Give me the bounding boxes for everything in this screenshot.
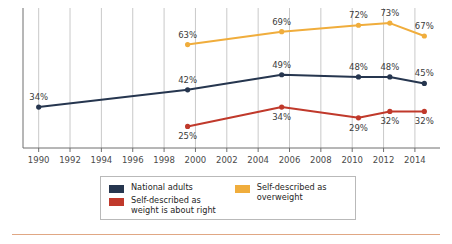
data-point[interactable] bbox=[279, 29, 284, 34]
legend-item-about-right[interactable]: Self-described as weight is about right bbox=[109, 196, 235, 215]
data-point[interactable] bbox=[387, 20, 392, 25]
line-chart: 1990199219941996199820002002200420062008… bbox=[0, 0, 452, 244]
axis-tick-label: 1994 bbox=[91, 155, 113, 165]
legend-label-national-adults: National adults bbox=[131, 183, 193, 193]
bottom-divider-rule bbox=[12, 234, 440, 235]
data-point[interactable] bbox=[36, 104, 41, 109]
series-line-2 bbox=[188, 23, 425, 44]
legend-column-left: National adults Self-described as weight… bbox=[109, 183, 235, 219]
data-point-label: 72% bbox=[349, 10, 368, 20]
data-point-label: 73% bbox=[380, 8, 399, 18]
legend-column-right: Self-described as overweight bbox=[235, 183, 347, 219]
data-point[interactable] bbox=[422, 33, 427, 38]
legend-item-overweight[interactable]: Self-described as overweight bbox=[235, 183, 347, 202]
data-point[interactable] bbox=[279, 104, 284, 109]
plot-area: 1990199219941996199820002002200420062008… bbox=[0, 0, 452, 170]
legend-label-overweight: Self-described as overweight bbox=[257, 183, 327, 202]
data-point-label: 25% bbox=[178, 131, 197, 141]
data-point-label: 69% bbox=[272, 17, 291, 27]
axis-tick-label: 2010 bbox=[341, 155, 363, 165]
axis-tick-label: 1998 bbox=[153, 155, 175, 165]
axis-tick-label: 2006 bbox=[279, 155, 301, 165]
legend-swatch-overweight bbox=[235, 185, 250, 193]
axis-tick-label: 1996 bbox=[122, 155, 144, 165]
axis-tick-label: 2002 bbox=[216, 155, 238, 165]
data-point-label: 48% bbox=[380, 62, 399, 72]
data-point[interactable] bbox=[387, 74, 392, 79]
data-point-label: 34% bbox=[29, 92, 48, 102]
data-point-label: 45% bbox=[415, 68, 434, 78]
axis-tick-label: 2012 bbox=[373, 155, 395, 165]
data-point[interactable] bbox=[356, 115, 361, 120]
axis-tick-label: 1990 bbox=[28, 155, 50, 165]
data-point[interactable] bbox=[356, 74, 361, 79]
data-point[interactable] bbox=[422, 109, 427, 114]
data-point[interactable] bbox=[387, 109, 392, 114]
axis-tick-label: 1992 bbox=[59, 155, 81, 165]
data-point-label: 29% bbox=[349, 123, 368, 133]
data-point-label: 63% bbox=[178, 30, 197, 40]
series-line-0 bbox=[39, 75, 425, 107]
axis-tick-label: 2014 bbox=[404, 155, 426, 165]
data-point-label: 49% bbox=[272, 60, 291, 70]
data-point[interactable] bbox=[279, 72, 284, 77]
data-point-label: 48% bbox=[349, 62, 368, 72]
axis-tick-label: 2000 bbox=[185, 155, 207, 165]
data-point[interactable] bbox=[356, 23, 361, 28]
data-point[interactable] bbox=[422, 81, 427, 86]
data-point[interactable] bbox=[185, 87, 190, 92]
data-point-label: 42% bbox=[178, 75, 197, 85]
axis-tick-label: 2008 bbox=[310, 155, 332, 165]
axis-tick-label: 2004 bbox=[247, 155, 269, 165]
data-point[interactable] bbox=[185, 42, 190, 47]
legend-label-about-right: Self-described as weight is about right bbox=[131, 196, 216, 215]
data-point-label: 67% bbox=[415, 21, 434, 31]
data-point[interactable] bbox=[185, 124, 190, 129]
data-point-label: 32% bbox=[415, 116, 434, 126]
data-point-label: 34% bbox=[272, 112, 291, 122]
legend-swatch-national-adults bbox=[109, 185, 124, 193]
chart-legend: National adults Self-described as weight… bbox=[100, 176, 356, 220]
data-point-label: 32% bbox=[380, 116, 399, 126]
legend-item-national-adults[interactable]: National adults bbox=[109, 183, 235, 193]
legend-swatch-about-right bbox=[109, 198, 124, 206]
